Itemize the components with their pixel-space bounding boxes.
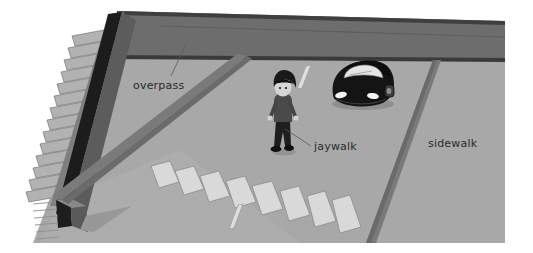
pedestrian-jacket (274, 93, 292, 122)
pedestrian-hand-right (293, 115, 298, 120)
car-side-mirror (385, 85, 394, 97)
pedestrian-shoe-front (284, 145, 294, 151)
illustration-canvas: overpass jaywalk sidewalk (0, 0, 533, 253)
pedestrian-eye-left (279, 87, 281, 89)
label-sidewalk: sidewalk (428, 137, 478, 150)
pedestrian-shoe-back (271, 146, 282, 152)
label-jaywalk: jaywalk (313, 140, 357, 153)
illustration-plate: overpass jaywalk sidewalk (26, 11, 505, 243)
street-scene-illustration: overpass jaywalk sidewalk (0, 0, 533, 253)
label-overpass: overpass (133, 79, 184, 92)
pedestrian-hand-left (267, 115, 272, 120)
pedestrian-eye-right (285, 87, 287, 89)
